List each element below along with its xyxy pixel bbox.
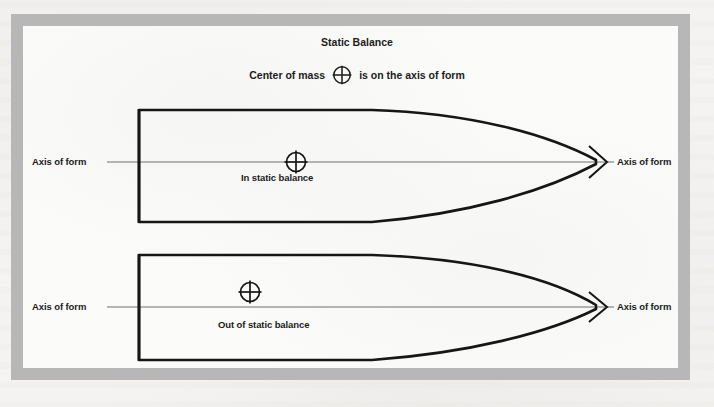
caption-out-of-static-balance: Out of static balance bbox=[218, 319, 309, 330]
center-of-mass-top bbox=[285, 151, 308, 174]
axis-label-left-top: Axis of form bbox=[32, 156, 86, 167]
axis-label-right-bottom: Axis of form bbox=[617, 301, 671, 312]
axis-label-right-top: Axis of form bbox=[617, 156, 671, 167]
diagram-canvas bbox=[0, 0, 714, 407]
hull-outline-top bbox=[139, 110, 596, 222]
center-of-mass-bottom bbox=[239, 281, 262, 304]
diagram-out-of-balance bbox=[107, 254, 614, 361]
axis-label-left-bottom: Axis of form bbox=[32, 301, 86, 312]
caption-in-static-balance: In static balance bbox=[241, 172, 313, 183]
diagram-in-balance bbox=[107, 109, 614, 223]
